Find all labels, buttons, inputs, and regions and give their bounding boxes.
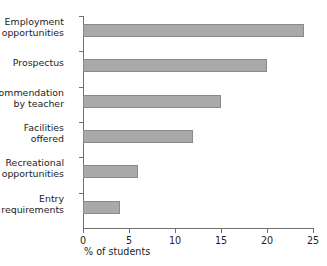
x-tick-label: 5	[126, 235, 132, 246]
category-label: Prospectus	[0, 57, 64, 68]
x-tick-label: 20	[261, 235, 273, 246]
y-tick	[79, 122, 83, 123]
y-tick	[79, 51, 83, 52]
bar	[83, 24, 304, 37]
y-tick	[79, 193, 83, 194]
bar-row: Recommendation by teacher	[83, 87, 313, 122]
x-tick	[221, 229, 222, 233]
category-label: Recreational opportunities	[0, 157, 64, 179]
x-axis-title: % of students	[84, 246, 150, 257]
bar	[83, 130, 193, 143]
bar-row: Employment opportunities	[83, 16, 313, 51]
x-tick-label: 0	[80, 235, 86, 246]
category-label: Recommendation by teacher	[0, 87, 64, 109]
x-tick-label: 15	[215, 235, 227, 246]
bar-row: Entry requirements	[83, 193, 313, 228]
x-tick	[175, 229, 176, 233]
x-tick	[313, 229, 314, 233]
x-tick-label: 25	[307, 235, 319, 246]
y-tick	[79, 16, 83, 17]
bar-chart: Employment opportunities Prospectus Reco…	[0, 0, 327, 266]
bar	[83, 95, 221, 108]
bar-row: Prospectus	[83, 51, 313, 86]
x-tick-label: 10	[169, 235, 181, 246]
y-tick	[79, 157, 83, 158]
bar	[83, 59, 267, 72]
plot-area: Employment opportunities Prospectus Reco…	[83, 16, 313, 228]
x-tick	[83, 229, 84, 233]
bar-row: Recreational opportunities	[83, 157, 313, 192]
category-label: Employment opportunities	[0, 16, 64, 38]
category-label: Entry requirements	[0, 193, 64, 215]
bar-row: Facilities offered	[83, 122, 313, 157]
bar	[83, 201, 120, 214]
x-tick	[129, 229, 130, 233]
x-tick	[267, 229, 268, 233]
y-tick	[79, 87, 83, 88]
category-label: Facilities offered	[0, 122, 64, 144]
bar	[83, 165, 138, 178]
